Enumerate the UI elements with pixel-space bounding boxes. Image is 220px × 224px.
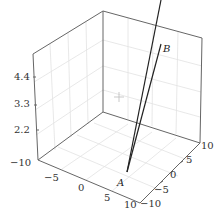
z-tick-2-2: 2.2 bbox=[14, 124, 30, 135]
point-b-label: B bbox=[162, 43, 170, 54]
y-tick-10: 10 bbox=[201, 140, 214, 151]
y-tick-neg5: −5 bbox=[154, 184, 169, 195]
z-tick-4-4: 4.4 bbox=[14, 71, 30, 82]
point-a-label: A bbox=[116, 177, 124, 188]
segment-ab-line bbox=[127, 44, 161, 172]
x-tick-0: 0 bbox=[78, 182, 84, 193]
3d-plot: 4.4 3.3 2.2 −10 −5 0 5 10 −10 −5 0 5 10 … bbox=[0, 0, 220, 224]
y-tick-5: 5 bbox=[186, 154, 192, 165]
x-tick-10: 10 bbox=[124, 199, 137, 210]
x-tick-5: 5 bbox=[104, 192, 110, 203]
x-tick-neg5: −5 bbox=[44, 172, 59, 183]
z-tick-neg10: −10 bbox=[10, 157, 31, 168]
gridlines bbox=[34, 18, 202, 191]
y-tick-neg10: −10 bbox=[140, 198, 161, 209]
y-tick-0: 0 bbox=[170, 169, 176, 180]
segment-ab bbox=[127, 0, 161, 172]
z-tick-3-3: 3.3 bbox=[14, 98, 30, 109]
